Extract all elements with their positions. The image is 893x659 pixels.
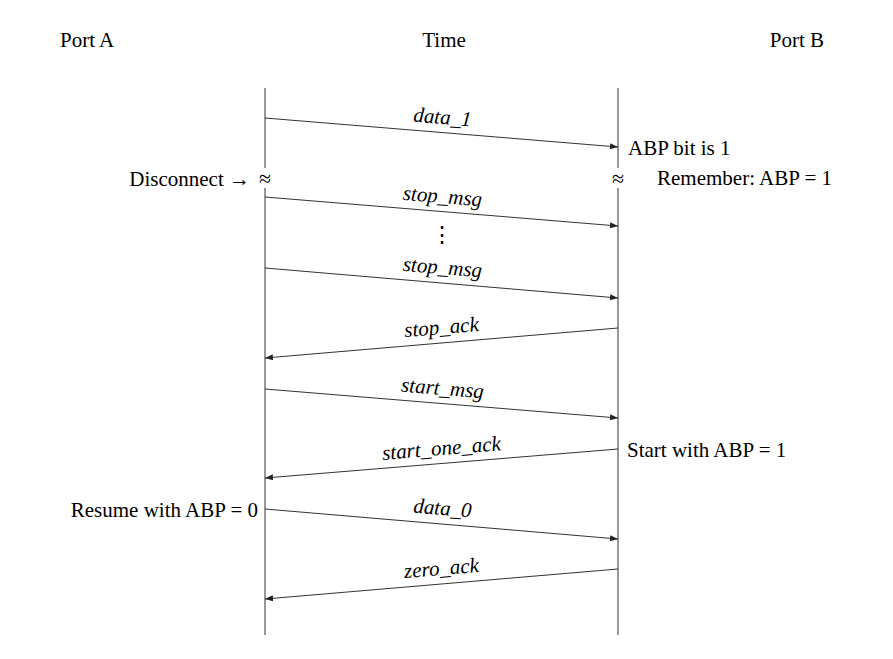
note-resume-with: Resume with ABP = 0 bbox=[71, 498, 258, 522]
note-disconnect: Disconnect → bbox=[129, 167, 250, 191]
message-label: data_1 bbox=[413, 103, 473, 132]
header-port-b: Port B bbox=[770, 28, 824, 52]
message-zero-ack: zero_ack bbox=[265, 553, 618, 599]
message-start-msg: start_msg bbox=[265, 373, 618, 418]
message-label: stop_ack bbox=[403, 312, 480, 342]
message-stop-msg-2: stop_msg bbox=[265, 252, 618, 298]
message-label: zero_ack bbox=[402, 553, 480, 583]
message-data-1: data_1 bbox=[265, 103, 618, 147]
sequence-diagram: Port A Time Port B ≈ ≈ data_1 stop_msg ⋮… bbox=[0, 0, 893, 659]
note-abp-bit: ABP bit is 1 bbox=[628, 136, 731, 160]
header-time: Time bbox=[422, 28, 466, 52]
message-start-one-ack: start_one_ack bbox=[265, 431, 618, 478]
message-label: stop_msg bbox=[402, 252, 483, 282]
message-label: data_0 bbox=[413, 494, 474, 523]
message-label: start_msg bbox=[400, 373, 485, 404]
note-remember: Remember: ABP = 1 bbox=[657, 166, 832, 190]
break-icon-port-b: ≈ bbox=[612, 166, 624, 191]
message-label: stop_msg bbox=[402, 181, 483, 211]
ellipsis-icon: ⋮ bbox=[431, 222, 453, 247]
note-start-with: Start with ABP = 1 bbox=[627, 438, 786, 462]
message-stop-ack: stop_ack bbox=[265, 312, 618, 358]
message-data-0: data_0 bbox=[265, 494, 618, 539]
message-stop-msg-1: stop_msg bbox=[265, 181, 618, 226]
break-icon-port-a: ≈ bbox=[259, 166, 271, 191]
header-port-a: Port A bbox=[60, 28, 115, 52]
